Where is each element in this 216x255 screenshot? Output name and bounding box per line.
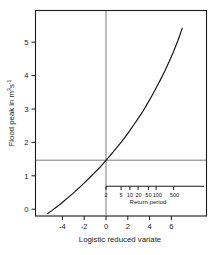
x-tick-label-4: 4 — [147, 222, 151, 231]
y-axis-label-sup2: -1 — [6, 79, 12, 84]
return-period-axis-label: Return period — [130, 198, 167, 205]
x-tick-label-neg4: -4 — [59, 222, 66, 231]
return-period-inset: 2 5 10 20 50 100 500 Return period — [104, 186, 204, 205]
x-axis-ticks — [62, 216, 171, 220]
return-label-500: 500 — [170, 192, 179, 198]
y-tick-label-3: 3 — [24, 105, 28, 114]
x-tick-label-neg2: -2 — [81, 222, 88, 231]
x-axis-tick-labels: -4 -2 0 2 4 6 — [59, 222, 173, 231]
flood-frequency-curve — [48, 28, 183, 213]
y-tick-label-4: 4 — [24, 71, 28, 80]
return-label-5: 5 — [120, 192, 123, 198]
x-tick-label-0: 0 — [104, 222, 108, 231]
return-label-2: 2 — [104, 192, 107, 198]
y-axis-label: Flood peak in m3s-1 — [6, 79, 16, 146]
return-label-50: 50 — [145, 192, 151, 198]
x-axis-label: Logistic reduced variate — [79, 235, 161, 244]
chart-canvas: 0 1 2 3 4 5 Flood peak in m3s-1 -4 -2 0 — [0, 0, 216, 255]
plot-frame — [36, 11, 207, 217]
y-tick-label-0: 0 — [24, 205, 28, 214]
y-axis-ticks — [32, 42, 36, 209]
svg-text:Flood peak in m3s-1: Flood peak in m3s-1 — [6, 79, 16, 146]
y-tick-label-5: 5 — [24, 38, 28, 47]
return-label-100: 100 — [153, 192, 162, 198]
y-tick-label-1: 1 — [24, 172, 28, 181]
return-label-10: 10 — [127, 192, 133, 198]
y-axis-tick-labels: 0 1 2 3 4 5 — [24, 38, 28, 214]
y-tick-label-2: 2 — [24, 138, 28, 147]
x-tick-label-2: 2 — [126, 222, 130, 231]
flood-frequency-chart: 0 1 2 3 4 5 Flood peak in m3s-1 -4 -2 0 — [0, 0, 216, 255]
return-period-tick-labels: 2 5 10 20 50 100 500 — [104, 192, 179, 198]
y-axis-label-main: Flood peak in m — [7, 91, 16, 146]
return-label-20: 20 — [135, 192, 141, 198]
x-tick-label-6: 6 — [169, 222, 173, 231]
